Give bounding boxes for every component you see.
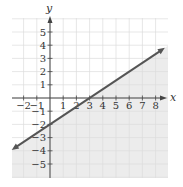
y-tick-label: 2 [40,66,46,77]
x-axis-label: x [170,91,177,104]
x-tick-label: 4 [100,100,106,111]
y-tick-label: 5 [40,27,46,38]
y-tick-label: 3 [40,53,46,64]
x-tick-label: 7 [139,100,145,111]
x-tick-label: 5 [113,100,119,111]
y-tick-label: −1 [31,106,46,117]
y-tick-label: −5 [31,159,46,170]
x-tick-label: 3 [86,100,92,111]
y-tick-label: 4 [40,40,46,51]
x-tick-label: 6 [126,100,132,111]
x-tick-label: 1 [60,100,66,111]
graph: −2−11234567854321−1−2−3−4−5 x y [0,0,183,187]
x-tick-label: 8 [152,100,158,111]
y-tick-label: 1 [40,79,46,90]
y-tick-label: −4 [31,145,46,156]
y-tick-label: −3 [31,132,46,143]
y-axis-label: y [45,2,53,15]
y-axis-arrow-icon [48,16,53,23]
